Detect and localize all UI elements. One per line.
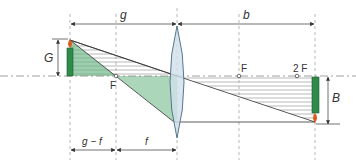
green-ray-region: [116, 76, 177, 122]
double-focal-marker: [295, 74, 299, 78]
focal-point-right-marker: [237, 74, 241, 78]
focal-point-left-marker: [114, 74, 118, 78]
label-g: g: [120, 8, 127, 22]
object-candle: [67, 48, 73, 76]
image-candle: [312, 77, 319, 113]
label-g-minus-f: g − f: [82, 136, 103, 147]
label-G: G: [44, 51, 53, 65]
convex-lens: [170, 26, 184, 138]
label-F-left: F: [110, 80, 116, 91]
lens-diagram: g b G B F F 2 F g − f f: [0, 0, 356, 164]
label-b: b: [243, 8, 250, 22]
label-2F: 2 F: [293, 63, 307, 74]
label-F-right: F: [241, 63, 247, 74]
label-B: B: [332, 91, 340, 105]
label-f: f: [145, 136, 149, 147]
